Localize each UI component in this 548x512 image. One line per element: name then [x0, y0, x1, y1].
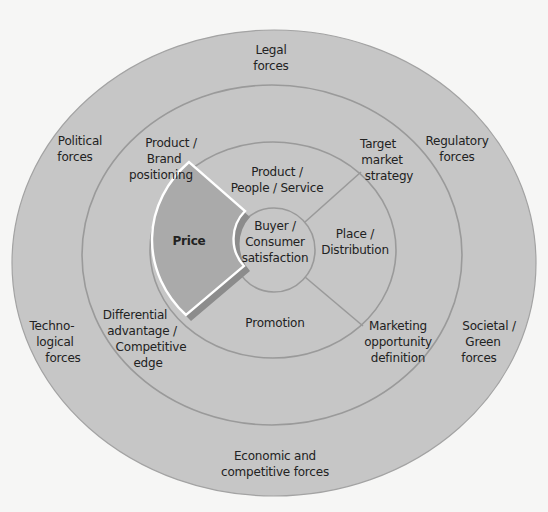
label-target-market-strategy: Target market strategy	[355, 136, 413, 184]
label-political-forces: Political forces	[58, 133, 102, 165]
label-place-distribution: Place / Distribution	[321, 226, 389, 258]
label-regulatory-forces: Regulatory forces	[425, 133, 488, 165]
label-buyer-consumer-satisfaction: Buyer / Consumer satisfaction	[242, 218, 309, 266]
label-product-brand-positioning: Product / Brand positioning	[131, 135, 197, 183]
label-marketing-opportunity-definition: Marketing opportunity definition	[364, 318, 432, 366]
label-price: Price	[172, 233, 205, 249]
label-societal-green-forces: Societal / Green forces	[450, 318, 516, 366]
label-promotion: Promotion	[245, 315, 304, 331]
label-technological-forces: Techno- logical forces	[33, 318, 80, 366]
label-economic-competitive-forces: Economic and competitive forces	[221, 448, 329, 480]
label-differential-advantage: Differential advantage / Competitive edg…	[104, 307, 187, 371]
marketing-strategy-diagram: Legal forces Political forces Regulatory…	[0, 0, 548, 512]
label-legal-forces: Legal forces	[253, 42, 288, 74]
label-product-people-service: Product / People / Service	[231, 164, 324, 196]
